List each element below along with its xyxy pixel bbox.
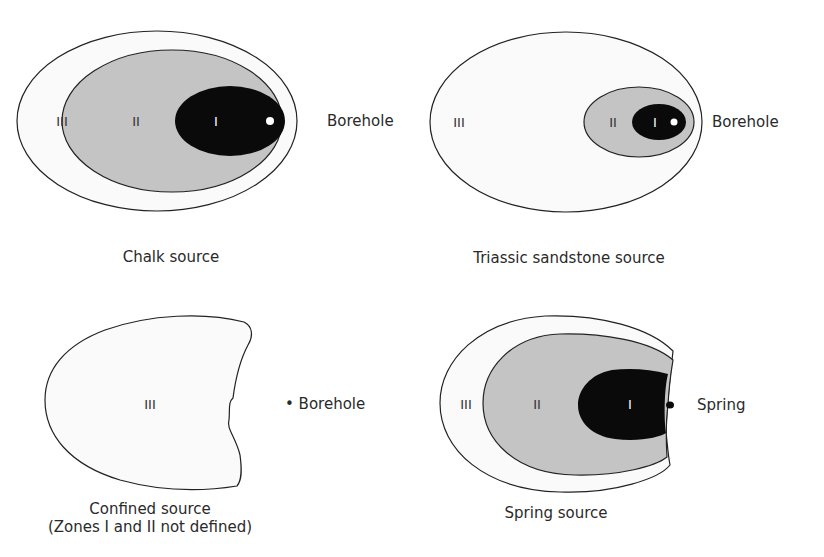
zone-3-label: III <box>453 115 465 130</box>
zone-2-label: II <box>533 397 541 412</box>
panel-chalk: III II I Borehole Chalk source <box>17 31 394 266</box>
zone-3-label: III <box>144 397 156 412</box>
source-protection-zones-diagram: III II I Borehole Chalk source III II I … <box>0 0 824 557</box>
zone-2-label: II <box>132 114 140 129</box>
borehole-label: • Borehole <box>285 395 365 413</box>
zone-2-label: II <box>609 115 617 130</box>
spring-marker <box>666 402 674 409</box>
zone-3-label: III <box>56 114 68 129</box>
zone-1-area <box>632 104 686 140</box>
panel-triassic: III II I Borehole Triassic sandstone sou… <box>430 32 779 267</box>
borehole-label: Borehole <box>327 112 394 130</box>
caption-chalk: Chalk source <box>123 248 220 266</box>
zone-1-label: I <box>653 115 657 130</box>
zone-1-label: I <box>628 397 632 412</box>
panel-confined: III • Borehole Confined source (Zones I … <box>45 316 365 536</box>
borehole-marker <box>266 117 274 125</box>
borehole-marker <box>671 119 678 126</box>
zone-3-label: III <box>460 397 472 412</box>
borehole-label: Borehole <box>712 113 779 131</box>
caption-spring: Spring source <box>505 504 608 522</box>
caption-confined-note: (Zones I and II not defined) <box>48 518 252 536</box>
caption-confined: Confined source <box>89 500 210 518</box>
panel-spring: III II I Spring Spring source <box>440 316 745 522</box>
zone-1-area <box>578 369 668 440</box>
caption-triassic: Triassic sandstone source <box>472 249 665 267</box>
zone-1-label: I <box>214 114 218 129</box>
spring-label: Spring <box>697 396 745 414</box>
